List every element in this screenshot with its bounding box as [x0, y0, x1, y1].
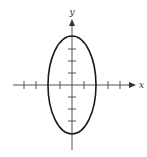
y-axis-arrow-icon [69, 19, 75, 26]
x-axis-label: x [139, 80, 144, 90]
x-axis-arrow-icon [129, 82, 136, 88]
diagram-canvas: x y [0, 0, 147, 157]
ellipse-diagram: x y [0, 0, 147, 157]
y-axis-label: y [69, 7, 76, 17]
